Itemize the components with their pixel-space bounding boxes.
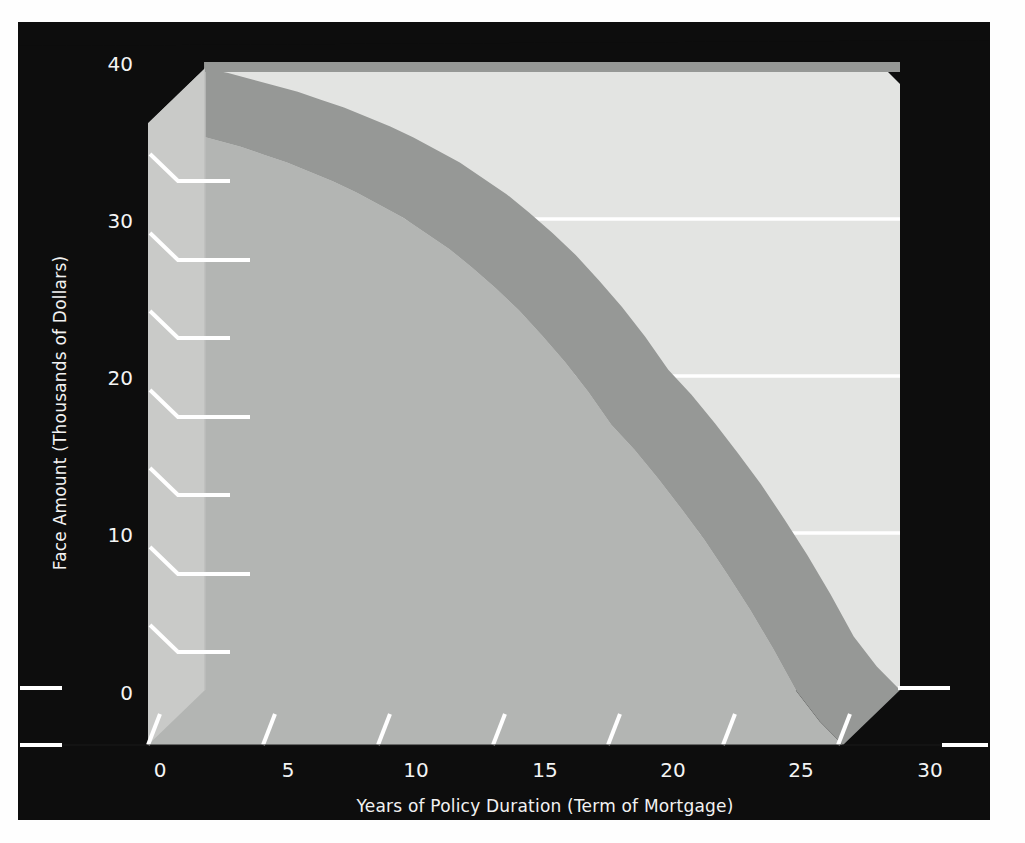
- x-tick-label-15: 15: [532, 758, 557, 782]
- figure-page: 40 30 20 10 0 Face Amount (Thousands of …: [0, 0, 1025, 843]
- back-wall-top-strip: [205, 62, 900, 72]
- area-chart-3d: 40 30 20 10 0 Face Amount (Thousands of …: [0, 0, 1025, 843]
- y-axis-title: Face Amount (Thousands of Dollars): [50, 256, 70, 571]
- area-left-side-wall: [148, 68, 205, 745]
- y-tick-label-40: 40: [108, 52, 133, 76]
- y-tick-label-0: 0: [120, 681, 133, 705]
- x-tick-label-30: 30: [917, 758, 942, 782]
- plot-3d-box: [148, 62, 900, 745]
- y-tick-label-10: 10: [108, 523, 133, 547]
- x-tick-label-0: 0: [154, 758, 167, 782]
- y-tick-label-30: 30: [108, 209, 133, 233]
- y-tick-label-20: 20: [108, 366, 133, 390]
- x-tick-label-10: 10: [403, 758, 428, 782]
- x-tick-label-25: 25: [788, 758, 813, 782]
- x-tick-label-20: 20: [660, 758, 685, 782]
- x-tick-label-5: 5: [282, 758, 295, 782]
- x-axis-title: Years of Policy Duration (Term of Mortga…: [355, 796, 733, 816]
